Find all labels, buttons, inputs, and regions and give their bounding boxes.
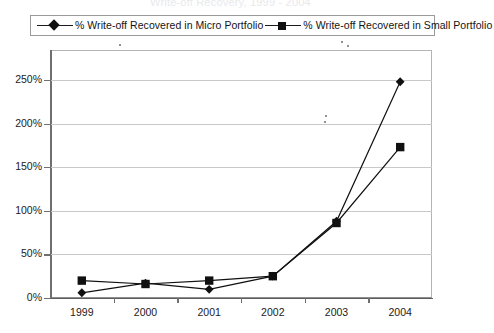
scan-speckle <box>347 45 349 47</box>
series-small <box>78 143 405 288</box>
series-micro <box>77 77 404 297</box>
data-point-square <box>269 272 277 280</box>
data-point-diamond <box>396 77 405 86</box>
data-point-diamond <box>205 285 214 294</box>
data-point-square <box>332 219 340 227</box>
data-point-square <box>141 280 149 288</box>
scan-speckle <box>341 41 343 43</box>
data-point-diamond <box>77 288 86 297</box>
scan-speckle <box>119 44 121 46</box>
series-line <box>82 147 400 284</box>
data-point-square <box>205 276 213 284</box>
series-line <box>82 82 400 293</box>
data-point-square <box>78 276 86 284</box>
data-point-square <box>396 143 404 151</box>
